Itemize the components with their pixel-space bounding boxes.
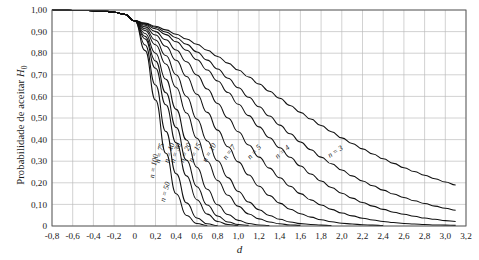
svg-text:n = 5: n = 5 (245, 143, 263, 161)
x-axis-ticklabels: -0,8-0,6-0,4-0,200,20,40,60,81,01,21,41,… (45, 231, 472, 241)
svg-text:0,20: 0,20 (31, 178, 47, 188)
svg-text:1,6: 1,6 (295, 231, 307, 241)
svg-text:0,2: 0,2 (150, 231, 162, 241)
svg-text:0,70: 0,70 (31, 70, 47, 80)
svg-text:0,40: 0,40 (31, 135, 47, 145)
svg-text:-0,6: -0,6 (65, 231, 80, 241)
svg-text:0,4: 0,4 (170, 231, 182, 241)
svg-text:1,4: 1,4 (274, 231, 286, 241)
svg-text:3,0: 3,0 (440, 231, 452, 241)
gridlines (52, 10, 466, 226)
y-axis-title: Probabilidade de aceitar H0 (15, 25, 29, 225)
svg-text:2,6: 2,6 (398, 231, 410, 241)
oc-curves-chart: -0,8-0,6-0,4-0,200,20,40,60,81,01,21,41,… (0, 0, 479, 260)
svg-text:0,50: 0,50 (31, 113, 47, 123)
svg-text:2,4: 2,4 (377, 231, 389, 241)
y-axis-ticklabels: 00,100,200,300,400,500,600,700,800,901,0… (31, 5, 47, 231)
x-axis-title: d (0, 243, 479, 255)
svg-text:0,60: 0,60 (31, 92, 47, 102)
svg-text:0,10: 0,10 (31, 200, 47, 210)
svg-text:0,8: 0,8 (212, 231, 224, 241)
svg-text:-0,8: -0,8 (45, 231, 60, 241)
svg-text:-0,2: -0,2 (107, 231, 122, 241)
svg-text:1,2: 1,2 (253, 231, 265, 241)
svg-text:n = 100: n = 100 (147, 153, 160, 179)
svg-text:n = 50: n = 50 (158, 181, 172, 203)
svg-text:0,80: 0,80 (31, 48, 47, 58)
svg-text:2,8: 2,8 (419, 231, 431, 241)
svg-text:3,2: 3,2 (460, 231, 472, 241)
svg-text:n = 7: n = 7 (221, 142, 239, 162)
svg-text:0: 0 (133, 231, 138, 241)
svg-text:1,0: 1,0 (233, 231, 245, 241)
svg-text:0,30: 0,30 (31, 156, 47, 166)
svg-text:0: 0 (42, 221, 47, 231)
svg-text:2,0: 2,0 (336, 231, 348, 241)
svg-text:2,2: 2,2 (357, 231, 369, 241)
svg-text:0,6: 0,6 (191, 231, 203, 241)
svg-text:1,00: 1,00 (31, 5, 47, 15)
svg-text:0,90: 0,90 (31, 27, 47, 37)
plot-canvas: -0,8-0,6-0,4-0,200,20,40,60,81,01,21,41,… (0, 0, 479, 260)
svg-text:1,8: 1,8 (315, 231, 327, 241)
svg-text:-0,4: -0,4 (86, 231, 101, 241)
